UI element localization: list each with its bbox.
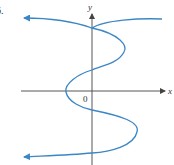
graph-figure: 6. x y 0 <box>0 0 174 165</box>
curve-lower-arrow-path <box>24 19 162 157</box>
graph-svg: 6. x y 0 <box>0 0 174 165</box>
y-axis-label: y <box>87 2 92 12</box>
origin-label: 0 <box>83 94 88 104</box>
curve-upper-arrow-path <box>24 18 92 28</box>
x-axis-label: x <box>167 86 172 96</box>
problem-number: 6. <box>0 5 4 16</box>
